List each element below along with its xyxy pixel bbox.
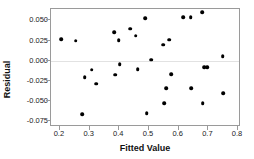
data-point [164,86,168,90]
data-point [60,38,64,42]
data-point [150,58,154,62]
data-point [117,39,121,43]
x-tick-label: 0.4 [106,129,130,138]
residual-vs-fitted-scatter-chart: Residual 0.0500.0250.000-0.025-0.050-0.0… [0,0,254,159]
x-axis-title: Fitted Value [50,143,240,153]
x-tick-mark [59,126,60,130]
x-tick-label: 0.3 [77,129,101,138]
data-point [167,38,171,42]
plot-area [50,8,240,126]
x-tick-label: 0.5 [136,129,160,138]
data-point [95,82,99,86]
data-point [163,101,167,105]
x-tick-mark [148,126,149,130]
y-axis-title: Residual [0,0,14,159]
data-point [206,66,210,70]
data-point [118,63,122,67]
data-point [200,10,204,14]
data-point [128,27,132,31]
data-point [114,73,118,77]
zero-reference-line [51,61,239,62]
data-point [161,43,165,47]
data-point [90,68,94,72]
y-tick-label: 0.000 [14,55,48,64]
y-tick-label: -0.025 [14,75,48,84]
data-point [74,39,78,43]
data-point [222,92,226,96]
x-tick-mark [178,126,179,130]
x-tick-label: 0.6 [166,129,190,138]
data-point [189,15,193,19]
x-tick-mark [207,126,208,130]
x-tick-mark [118,126,119,130]
data-point [80,113,84,117]
data-point [221,54,225,58]
data-point [169,72,173,76]
data-point [136,68,140,72]
data-point [201,102,205,106]
x-tick-label: 0.8 [225,129,249,138]
data-point [190,86,194,90]
data-point [83,75,87,79]
y-tick-label: -0.050 [14,96,48,105]
data-point [144,16,148,20]
x-tick-mark [89,126,90,130]
data-point [112,30,116,34]
y-tick-label: 0.025 [14,35,48,44]
y-tick-label: -0.075 [14,116,48,125]
y-tick-label: 0.050 [14,15,48,24]
x-tick-label: 0.2 [47,129,71,138]
x-tick-label: 0.7 [195,129,219,138]
data-point [134,34,138,38]
data-point [145,111,149,115]
data-point [181,15,185,19]
x-tick-mark [237,126,238,130]
